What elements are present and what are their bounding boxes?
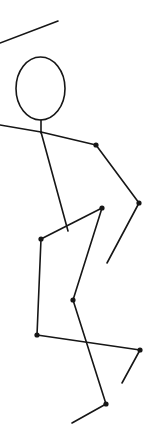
joint-ankle-left bbox=[137, 347, 142, 352]
joint-elbow bbox=[136, 200, 141, 205]
joint-hip-left bbox=[38, 236, 43, 241]
stick-figure-canvas bbox=[0, 0, 157, 441]
joint-hip-right bbox=[99, 205, 104, 210]
joint-shoulder bbox=[93, 142, 98, 147]
joint-knee-right bbox=[70, 297, 75, 302]
joint-ankle-right bbox=[103, 401, 108, 406]
joint-knee-left bbox=[34, 332, 39, 337]
